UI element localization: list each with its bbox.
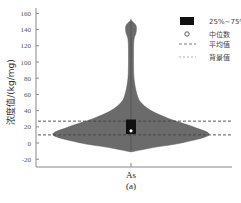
y-tick-label: 0	[28, 140, 32, 148]
y-tick-label: 60	[24, 91, 32, 99]
y-tick-label: 100	[21, 59, 32, 67]
y-axis-label: 浓度值/(kg/mg)	[5, 59, 16, 125]
legend-label-mean: 平均值	[209, 40, 230, 49]
legend-label-iqr: 25%~75%	[209, 18, 241, 26]
median-marker	[129, 129, 132, 132]
legend-iqr-swatch	[180, 17, 194, 25]
y-tick-label: 160	[21, 10, 32, 18]
y-tick-label: 120	[21, 42, 32, 50]
subfigure-label: (a)	[126, 181, 136, 191]
y-tick-label: 140	[21, 26, 32, 34]
x-category-label: As	[126, 170, 136, 180]
legend-label-median: 中位数	[209, 30, 230, 39]
legend-label-background: 背景值	[209, 53, 230, 62]
iqr-box	[126, 120, 136, 135]
legend-median-icon	[185, 32, 189, 36]
y-tick-label: 40	[24, 107, 32, 115]
y-tick-label: -20	[22, 156, 32, 164]
legend: 25%~75% 中位数 平均值 背景值	[179, 17, 241, 62]
y-tick-label: 80	[24, 75, 32, 83]
y-tick-label: 20	[24, 123, 32, 131]
violin-chart: -20020406080100120140160 As (a) 浓度值/(kg/…	[0, 0, 241, 203]
